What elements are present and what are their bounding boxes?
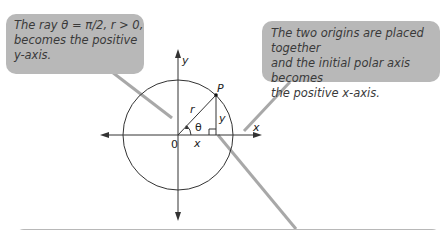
leader-line-bottom <box>218 135 296 229</box>
radius-label: r <box>190 103 196 116</box>
y-leg-label: y <box>218 112 226 125</box>
callout-line: The ray θ = π/2, r > 0, <box>14 18 144 33</box>
angle-label: θ <box>195 121 202 134</box>
point-p-label: P <box>217 82 224 95</box>
x-axis-label: x <box>252 121 260 134</box>
x-axis-left-arrow-icon <box>100 132 109 138</box>
callout-positive-y-axis: The ray θ = π/2, r > 0, becomes the posi… <box>6 14 144 74</box>
y-axis-label: y <box>181 54 189 67</box>
callout-bottom <box>14 229 442 230</box>
leader-line-top-left <box>112 72 172 118</box>
y-axis-up-arrow-icon <box>175 49 181 58</box>
x-leg-label: x <box>193 137 201 150</box>
callout-line: and the initial polar axis becomes <box>271 56 440 86</box>
callout-line: y-axis. <box>14 48 144 63</box>
right-angle-marker <box>209 129 216 135</box>
callout-positive-x-axis: The two origins are placed together and … <box>262 21 440 82</box>
callout-line: The two origins are placed together <box>271 26 440 56</box>
callout-line: the positive x-axis. <box>271 86 440 101</box>
y-axis-down-arrow-icon <box>175 212 181 221</box>
origin-label: 0 <box>171 138 178 151</box>
callout-line: becomes the positive <box>14 33 144 48</box>
